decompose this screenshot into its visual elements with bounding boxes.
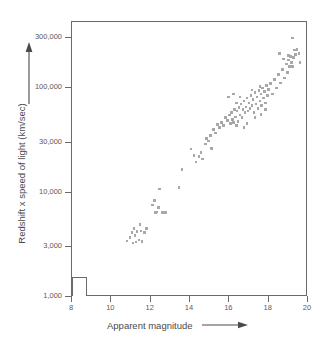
data-point bbox=[131, 231, 134, 234]
x-axis-tick-mark bbox=[110, 296, 111, 302]
data-point bbox=[133, 227, 136, 230]
y-axis-tick-label: 3,000 bbox=[43, 242, 62, 250]
origin-inset-box bbox=[72, 277, 87, 296]
data-point bbox=[181, 168, 184, 171]
data-point bbox=[291, 37, 294, 40]
data-point bbox=[237, 120, 240, 123]
data-point bbox=[161, 211, 164, 214]
data-point bbox=[293, 49, 296, 52]
data-point bbox=[164, 211, 167, 214]
data-point bbox=[145, 227, 148, 230]
data-point bbox=[204, 143, 207, 146]
data-point bbox=[257, 107, 260, 110]
x-axis-tick-label: 8 bbox=[61, 303, 81, 312]
data-point bbox=[238, 106, 241, 109]
data-point bbox=[277, 73, 280, 76]
data-point bbox=[235, 124, 238, 127]
data-point bbox=[143, 231, 146, 234]
x-axis-tick-mark bbox=[189, 296, 190, 302]
data-point bbox=[251, 89, 254, 92]
data-point bbox=[259, 85, 262, 88]
data-point bbox=[243, 100, 246, 103]
data-point bbox=[228, 114, 231, 117]
data-point bbox=[244, 111, 247, 114]
data-point bbox=[254, 116, 257, 119]
data-point bbox=[229, 122, 232, 125]
y-axis-tick-label: 30,000 bbox=[39, 138, 62, 146]
data-point bbox=[273, 78, 276, 81]
data-point bbox=[178, 186, 181, 189]
data-point bbox=[242, 108, 245, 111]
data-point bbox=[126, 240, 129, 243]
data-point bbox=[249, 107, 252, 110]
hubble-diagram-figure: 300,000100,00030,00010,0003,0001,000 810… bbox=[0, 0, 326, 352]
y-axis-title: Redshift x speed of light (km/sec) bbox=[16, 49, 27, 299]
data-point bbox=[132, 242, 135, 245]
data-point bbox=[285, 63, 288, 66]
data-point bbox=[141, 240, 144, 243]
data-point bbox=[255, 103, 258, 106]
data-point bbox=[261, 87, 264, 90]
data-point bbox=[263, 90, 266, 93]
data-point bbox=[198, 155, 201, 158]
data-point bbox=[287, 54, 290, 57]
data-point bbox=[264, 108, 267, 111]
x-axis-tick-mark bbox=[150, 296, 151, 302]
data-point bbox=[158, 188, 161, 191]
data-point bbox=[281, 68, 284, 71]
data-point bbox=[275, 87, 278, 90]
data-point bbox=[207, 140, 210, 143]
data-point bbox=[230, 111, 233, 114]
x-axis-tick-label: 10 bbox=[100, 303, 120, 312]
y-axis-tick-mark bbox=[65, 87, 72, 88]
data-point bbox=[282, 58, 285, 61]
data-point bbox=[247, 110, 250, 113]
data-point bbox=[290, 61, 293, 64]
data-point bbox=[140, 230, 143, 233]
data-point bbox=[136, 230, 139, 233]
data-point bbox=[279, 82, 282, 85]
x-axis-title: Apparent magnitude bbox=[107, 320, 193, 331]
data-point bbox=[129, 236, 132, 239]
x-axis-tick-mark bbox=[71, 296, 72, 302]
data-point bbox=[262, 97, 265, 100]
data-point bbox=[231, 118, 234, 121]
data-point bbox=[245, 106, 248, 109]
data-point bbox=[239, 96, 242, 99]
data-point bbox=[232, 93, 235, 96]
data-point bbox=[299, 61, 302, 64]
data-point bbox=[234, 116, 237, 119]
data-point bbox=[233, 108, 236, 111]
data-point bbox=[220, 121, 223, 124]
y-axis-tick-mark bbox=[65, 142, 72, 143]
data-point bbox=[232, 121, 235, 124]
data-point bbox=[154, 211, 157, 214]
data-point bbox=[265, 84, 268, 87]
data-point bbox=[253, 111, 256, 114]
data-point bbox=[195, 161, 198, 164]
data-point bbox=[201, 158, 204, 161]
scatter-points-layer bbox=[72, 22, 306, 295]
data-point bbox=[138, 239, 141, 242]
data-point bbox=[283, 77, 286, 80]
y-axis-tick-mark bbox=[65, 192, 72, 193]
data-point bbox=[134, 234, 137, 237]
data-point bbox=[205, 137, 208, 140]
data-point bbox=[190, 148, 193, 151]
data-point bbox=[292, 56, 295, 59]
data-point bbox=[266, 94, 269, 97]
x-axis-tick-mark bbox=[228, 296, 229, 302]
data-point bbox=[289, 55, 292, 58]
data-point bbox=[218, 126, 221, 129]
x-axis-tick-mark bbox=[307, 296, 308, 302]
y-axis-tick-label: 100,000 bbox=[35, 83, 62, 91]
data-point bbox=[153, 199, 156, 202]
data-point bbox=[254, 91, 257, 94]
data-point bbox=[157, 206, 160, 209]
data-point bbox=[241, 116, 244, 119]
data-point bbox=[260, 104, 263, 107]
y-axis-tick-mark bbox=[65, 37, 72, 38]
data-point bbox=[193, 154, 196, 157]
data-point bbox=[271, 93, 274, 96]
data-point bbox=[246, 97, 249, 100]
